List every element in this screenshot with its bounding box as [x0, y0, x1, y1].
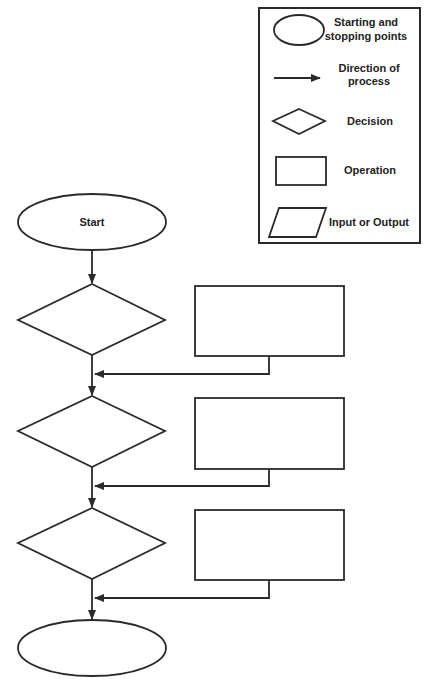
legend-label: Decision — [347, 115, 393, 127]
operation-2 — [195, 398, 344, 469]
decision-1 — [18, 284, 165, 355]
operation-1 — [195, 286, 344, 356]
start-label: Start — [79, 216, 104, 228]
rectangle-icon — [276, 157, 326, 185]
parallelogram-icon — [269, 208, 326, 237]
legend-label: stopping points — [325, 30, 407, 42]
legend-label: Operation — [344, 164, 396, 176]
decision-2 — [18, 396, 165, 467]
legend-item-start-stop: Starting and stopping points — [274, 15, 407, 45]
end-node — [18, 620, 166, 676]
legend-label: Direction of — [338, 62, 399, 74]
legend-label: Input or Output — [329, 216, 409, 228]
flowchart-diagram: Starting and stopping points Direction o… — [0, 0, 436, 682]
return-arrow-1 — [95, 356, 269, 374]
legend-label: process — [348, 75, 390, 87]
operation-3 — [195, 510, 344, 580]
legend-label: Starting and — [334, 16, 398, 28]
return-arrow-2 — [95, 469, 269, 486]
ellipse-icon — [274, 15, 324, 45]
decision-3 — [18, 508, 165, 579]
return-arrow-3 — [95, 580, 269, 598]
start-node: Start — [18, 194, 166, 250]
legend: Starting and stopping points Direction o… — [259, 8, 420, 243]
end-ellipse — [18, 620, 166, 676]
